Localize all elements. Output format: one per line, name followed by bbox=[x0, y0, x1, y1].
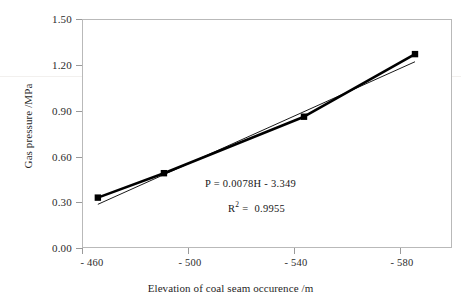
marker-group bbox=[95, 51, 419, 201]
data-series-layer bbox=[0, 0, 461, 303]
series-line-group bbox=[98, 54, 415, 198]
data-point-marker bbox=[95, 194, 101, 200]
series-line bbox=[98, 54, 415, 198]
trendline bbox=[98, 62, 415, 205]
chart-container: 1.50 1.20 0.90 0.60 0.30 0.00 - 460 - 50… bbox=[0, 0, 461, 303]
data-point-marker bbox=[161, 170, 167, 176]
data-point-marker bbox=[301, 114, 307, 120]
data-point-marker bbox=[412, 51, 418, 57]
trendline-group bbox=[98, 62, 415, 205]
